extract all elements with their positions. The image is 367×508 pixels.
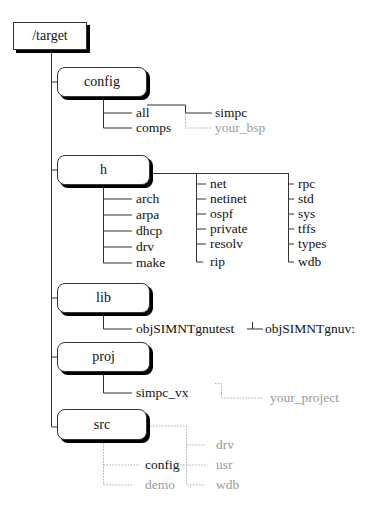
leaf-std: std [298,192,314,206]
leaf-sys: sys [298,207,315,221]
leaf-private: private [210,222,247,236]
leaf-dhcp: dhcp [136,224,162,238]
node-label: /target [32,28,68,44]
leaf-src-config: config [145,458,180,472]
directory-tree-diagram: /target config all comps simpc your_bsp … [0,0,367,508]
leaf-arch: arch [136,192,159,206]
node-src[interactable]: src [57,409,147,440]
leaf-all: all [136,106,150,120]
leaf-your-bsp: your_bsp [215,121,265,135]
leaf-src-drv: drv [216,438,234,452]
leaf-objsimntgnuv: objSIMNTgnuv: [265,322,355,336]
node-proj[interactable]: proj [57,342,150,372]
node-label: proj [92,349,115,365]
leaf-demo: demo [145,478,175,492]
leaf-ospf: ospf [210,207,233,221]
node-lib[interactable]: lib [57,283,150,313]
leaf-drv: drv [136,240,154,254]
leaf-resolv: resolv [210,237,243,251]
leaf-comps: comps [136,121,171,135]
leaf-rpc: rpc [298,177,315,191]
leaf-simpc-vx: simpc_vx [136,386,189,400]
node-label: config [84,74,120,90]
leaf-arpa: arpa [136,208,159,222]
node-label: lib [96,290,111,306]
leaf-src-wdb: wdb [216,478,239,492]
node-label: h [100,162,107,178]
node-label: src [94,417,110,433]
leaf-net: net [210,177,227,191]
leaf-objsimntgnutest: objSIMNTgnutest [136,322,234,336]
leaf-make: make [136,256,165,270]
leaf-usr: usr [216,458,233,472]
leaf-tffs: tffs [298,222,316,236]
leaf-simpc: simpc [215,106,247,120]
node-target-root[interactable]: /target [13,22,87,50]
node-h[interactable]: h [57,155,150,185]
leaf-types: types [298,237,327,251]
leaf-rip: rip [210,255,225,269]
leaf-your-project: your_project [270,391,339,405]
leaf-wdb: wdb [298,255,321,269]
node-config[interactable]: config [57,67,147,97]
leaf-netinet: netinet [210,192,247,206]
